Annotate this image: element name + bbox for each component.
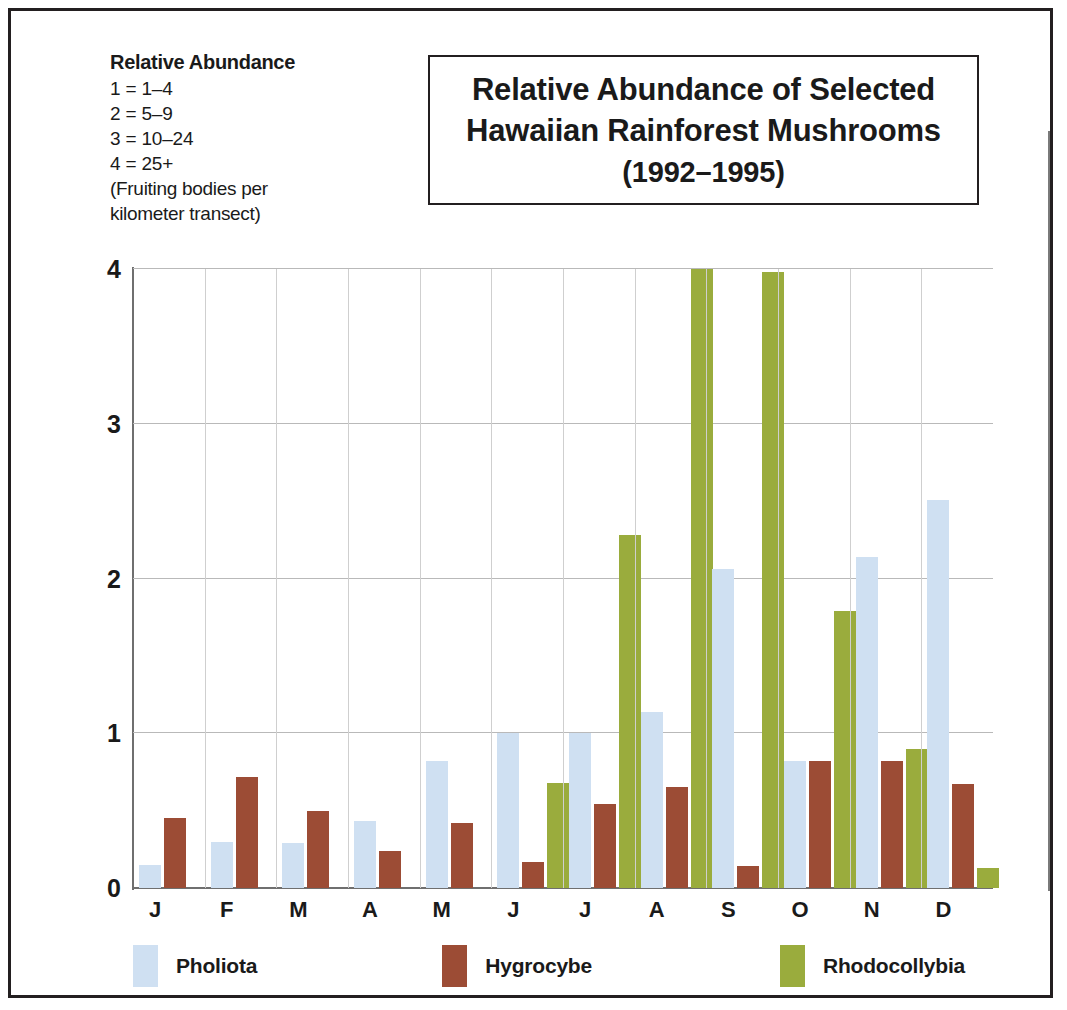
bar-hygrocybe-M-2[interactable] bbox=[307, 811, 329, 888]
plot-area bbox=[133, 269, 993, 888]
bar-hygrocybe-M-4[interactable] bbox=[451, 823, 473, 888]
y-tick-label-3: 3 bbox=[81, 409, 121, 438]
bar-pholiota-A-3[interactable] bbox=[354, 821, 376, 888]
category-separator-N-10 bbox=[850, 269, 851, 888]
x-tick-label-6: J bbox=[565, 897, 605, 923]
bar-hygrocybe-A-3[interactable] bbox=[379, 851, 401, 888]
x-tick-label-4: M bbox=[422, 897, 462, 923]
bar-rhodocollybia-O-9[interactable] bbox=[834, 611, 856, 888]
bar-group-J-5 bbox=[497, 269, 569, 888]
chart-legend: PholiotaHygrocybeRhodocollybia bbox=[133, 945, 965, 987]
bar-hygrocybe-D-11[interactable] bbox=[952, 784, 974, 888]
bar-rhodocollybia-D-11[interactable] bbox=[977, 868, 999, 888]
bar-pholiota-S-8[interactable] bbox=[712, 569, 734, 888]
x-tick-label-2: M bbox=[278, 897, 318, 923]
y-axis-tick-labels: 01234 bbox=[73, 269, 121, 888]
x-tick-label-5: J bbox=[493, 897, 533, 923]
bar-group-F-1 bbox=[211, 269, 258, 888]
legend-label-pholiota: Pholiota bbox=[176, 954, 257, 978]
bar-hygrocybe-O-9[interactable] bbox=[809, 761, 831, 888]
bar-pholiota-F-1[interactable] bbox=[211, 842, 233, 888]
page-frame: Relative Abundance 1 = 1–4 2 = 5–9 3 = 1… bbox=[8, 8, 1053, 998]
legend-entry-rhodocollybia[interactable]: Rhodocollybia bbox=[780, 945, 965, 987]
bar-pholiota-N-10[interactable] bbox=[856, 557, 878, 888]
bar-hygrocybe-J-0[interactable] bbox=[164, 818, 186, 888]
bar-pholiota-J-5[interactable] bbox=[497, 733, 519, 888]
bar-group-J-6 bbox=[569, 269, 641, 888]
bar-group-A-3 bbox=[354, 269, 401, 888]
bar-hygrocybe-J-6[interactable] bbox=[594, 804, 616, 888]
x-tick-label-10: N bbox=[852, 897, 892, 923]
bar-rhodocollybia-J-5[interactable] bbox=[547, 783, 569, 888]
category-separator-S-8 bbox=[706, 269, 707, 888]
bar-pholiota-M-4[interactable] bbox=[426, 761, 448, 888]
chart-plot: 01234 JFMAMJJASOND bbox=[11, 11, 1056, 1001]
bar-pholiota-O-9[interactable] bbox=[784, 761, 806, 888]
x-tick-label-7: A bbox=[637, 897, 677, 923]
x-tick-label-3: A bbox=[350, 897, 390, 923]
bar-hygrocybe-A-7[interactable] bbox=[666, 787, 688, 888]
bar-hygrocybe-S-8[interactable] bbox=[737, 866, 759, 888]
category-separator-M-4 bbox=[420, 269, 421, 888]
category-separator-D-11 bbox=[921, 269, 922, 888]
legend-entry-pholiota[interactable]: Pholiota bbox=[133, 945, 257, 987]
bar-rhodocollybia-N-10[interactable] bbox=[906, 749, 928, 888]
y-tick-label-2: 2 bbox=[81, 564, 121, 593]
bar-rhodocollybia-A-7[interactable] bbox=[691, 269, 713, 888]
bar-group-S-8 bbox=[712, 269, 784, 888]
category-separator-J-5 bbox=[491, 269, 492, 888]
bar-group-N-10 bbox=[856, 269, 928, 888]
y-tick-label-1: 1 bbox=[81, 719, 121, 748]
bar-group-J-0 bbox=[139, 269, 186, 888]
category-separator-M-2 bbox=[276, 269, 277, 888]
legend-label-hygrocybe: Hygrocybe bbox=[485, 954, 592, 978]
x-tick-label-0: J bbox=[135, 897, 175, 923]
category-separator-J-6 bbox=[563, 269, 564, 888]
legend-swatch-hygrocybe bbox=[442, 945, 467, 987]
x-tick-label-11: D bbox=[923, 897, 963, 923]
bar-hygrocybe-F-1[interactable] bbox=[236, 777, 258, 888]
bar-rhodocollybia-J-6[interactable] bbox=[619, 535, 641, 888]
right-margin-rule bbox=[1048, 131, 1050, 891]
x-tick-label-9: O bbox=[780, 897, 820, 923]
y-tick-label-4: 4 bbox=[81, 255, 121, 284]
legend-swatch-rhodocollybia bbox=[780, 945, 805, 987]
category-separator-F-1 bbox=[205, 269, 206, 888]
legend-label-rhodocollybia: Rhodocollybia bbox=[823, 954, 965, 978]
bar-rhodocollybia-S-8[interactable] bbox=[762, 272, 784, 888]
bar-group-D-11 bbox=[927, 269, 999, 888]
y-tick-label-0: 0 bbox=[81, 874, 121, 903]
x-tick-label-1: F bbox=[207, 897, 247, 923]
bar-pholiota-A-7[interactable] bbox=[641, 712, 663, 888]
category-separator-A-7 bbox=[635, 269, 636, 888]
bar-pholiota-D-11[interactable] bbox=[927, 500, 949, 888]
bar-pholiota-M-2[interactable] bbox=[282, 843, 304, 888]
bar-group-O-9 bbox=[784, 269, 856, 888]
bar-pholiota-J-0[interactable] bbox=[139, 865, 161, 888]
bar-hygrocybe-N-10[interactable] bbox=[881, 761, 903, 888]
bar-pholiota-J-6[interactable] bbox=[569, 733, 591, 888]
bar-group-M-4 bbox=[426, 269, 473, 888]
legend-entry-hygrocybe[interactable]: Hygrocybe bbox=[442, 945, 592, 987]
bar-hygrocybe-J-5[interactable] bbox=[522, 862, 544, 888]
category-separator-O-9 bbox=[778, 269, 779, 888]
legend-swatch-pholiota bbox=[133, 945, 158, 987]
bar-group-A-7 bbox=[641, 269, 713, 888]
x-tick-label-8: S bbox=[708, 897, 748, 923]
bar-group-M-2 bbox=[282, 269, 329, 888]
category-separator-A-3 bbox=[348, 269, 349, 888]
